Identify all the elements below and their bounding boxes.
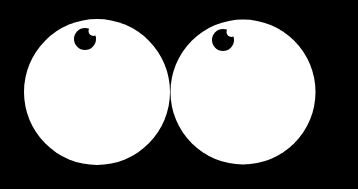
right-eye-white bbox=[171, 20, 316, 165]
googly-eyes-scene bbox=[0, 0, 358, 189]
right-eye bbox=[171, 20, 316, 165]
left-eye bbox=[24, 19, 170, 165]
left-eye-white bbox=[24, 19, 170, 165]
left-pupil-highlight bbox=[89, 26, 99, 36]
right-pupil-highlight bbox=[227, 27, 237, 37]
